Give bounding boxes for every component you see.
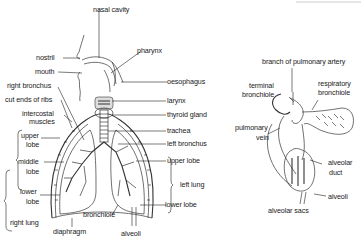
label-pulmonary-vein-2: vein: [256, 134, 269, 142]
label-upper-lobe-right-1: upper: [21, 132, 39, 140]
label-alveoli-left: alveoli: [121, 230, 141, 238]
label-alveolar-duct-2: duct: [329, 169, 342, 177]
label-thyroid-gland: thyroid gland: [167, 111, 207, 119]
label-alveolar-duct-1: alveolar: [328, 159, 352, 167]
label-left-bronchus: left bronchus: [167, 140, 207, 148]
label-alveoli-right: alveoli: [328, 193, 348, 201]
label-upper-lobe-left: upper lobe: [167, 157, 200, 165]
label-terminal-bronchiole-2: bronchiole: [242, 91, 274, 99]
label-upper-lobe-right-2: lobe: [26, 141, 39, 149]
label-bronchiole: bronchiole: [83, 211, 115, 219]
label-respiratory-bronchiole-2: bronchiole: [318, 89, 350, 97]
label-lower-lobe-right-2: lobe: [26, 198, 39, 206]
label-pharynx: pharynx: [137, 47, 162, 55]
label-lower-lobe-left: lower lobe: [165, 201, 197, 209]
label-oesophagus: oesophagus: [167, 78, 205, 86]
label-cut-ends-of-ribs: cut ends of ribs: [5, 96, 52, 104]
label-mouth: mouth: [35, 68, 54, 76]
label-trachea: trachea: [167, 127, 190, 135]
respiratory-diagram: nasal cavity pharynx nostril mouth oesop…: [0, 0, 361, 240]
label-nasal-cavity: nasal cavity: [93, 6, 129, 14]
label-diaphragm: diaphragm: [53, 228, 86, 236]
label-respiratory-bronchiole-1: respiratory: [318, 80, 351, 88]
label-middle-lobe-2: lobe: [26, 168, 39, 176]
label-middle-lobe-1: middle: [18, 158, 39, 166]
label-left-lung: left lung: [180, 181, 204, 189]
label-nostril: nostril: [36, 54, 54, 62]
label-right-bronchus: right bronchus: [7, 82, 51, 90]
label-larynx: larynx: [167, 97, 186, 105]
label-pulmonary-vein-1: pulmonary: [235, 124, 268, 132]
label-muscles: muscles: [29, 118, 55, 126]
label-lower-lobe-right-1: lower: [20, 188, 37, 196]
label-alveolar-sacs: alveolar sacs: [268, 207, 309, 215]
label-right-lung: right lung: [10, 219, 39, 227]
label-terminal-bronchiole-1: terminal: [249, 82, 274, 90]
label-branch-of-pulmonary-artery: branch of pulmonary artery: [262, 58, 345, 66]
